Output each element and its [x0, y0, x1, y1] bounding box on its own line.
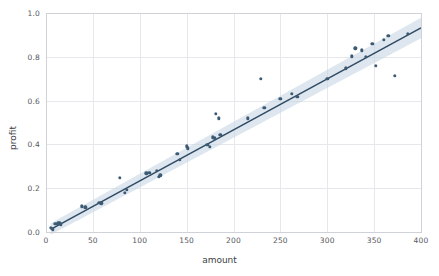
- axis-spine-right: [421, 13, 422, 232]
- axis-spine-left: [46, 13, 47, 232]
- axis-spine-bottom: [46, 232, 422, 233]
- x-tick-label: 250: [273, 236, 288, 245]
- scatter-plot-figure: 050100150200250300350400 0.00.20.40.60.8…: [0, 0, 439, 276]
- x-tick-label: 0: [44, 236, 49, 245]
- axis-spine-top: [46, 13, 422, 14]
- x-tick-label: 200: [226, 236, 241, 245]
- x-tick-label: 50: [88, 236, 98, 245]
- y-tick-label: 1.0: [18, 9, 40, 18]
- x-tick-label: 100: [132, 236, 147, 245]
- plot-area: [46, 13, 421, 232]
- x-axis-title: amount: [0, 255, 439, 265]
- y-tick-label: 0.8: [18, 52, 40, 61]
- y-tick-label: 0.0: [18, 228, 40, 237]
- x-tick-label: 300: [320, 236, 335, 245]
- y-tick-label: 0.6: [18, 96, 40, 105]
- y-axis-title: profit: [8, 108, 18, 168]
- confidence-band: [51, 18, 421, 235]
- regression-overlay: [46, 13, 421, 232]
- x-tick-label: 150: [179, 236, 194, 245]
- x-tick-label: 350: [367, 236, 382, 245]
- y-tick-label: 0.4: [18, 140, 40, 149]
- y-tick-label: 0.2: [18, 184, 40, 193]
- x-tick-label: 400: [414, 236, 429, 245]
